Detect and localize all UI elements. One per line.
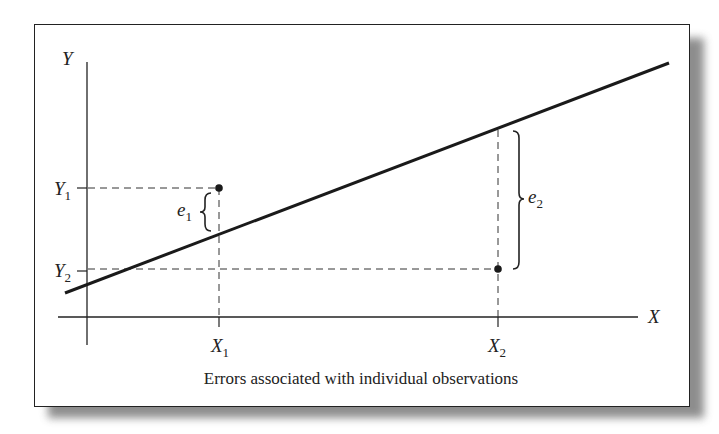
x2-tick-label: X2 (487, 335, 506, 360)
x-axis-label: X (647, 306, 661, 327)
e2-brace-icon (513, 131, 524, 269)
figure-caption: Errors associated with individual observ… (34, 369, 688, 389)
y1-tick-label: Y1 (54, 178, 71, 203)
y2-tick-label: Y2 (54, 260, 71, 285)
observation-point-2 (494, 265, 502, 273)
e1-brace-icon (200, 193, 211, 231)
e2-label: e2 (528, 186, 543, 211)
x1-tick-label: X1 (210, 335, 229, 360)
y-axis-label: Y (62, 48, 75, 69)
observation-point-1 (215, 184, 223, 192)
regression-line (65, 63, 669, 293)
e1-label: e1 (177, 199, 192, 224)
